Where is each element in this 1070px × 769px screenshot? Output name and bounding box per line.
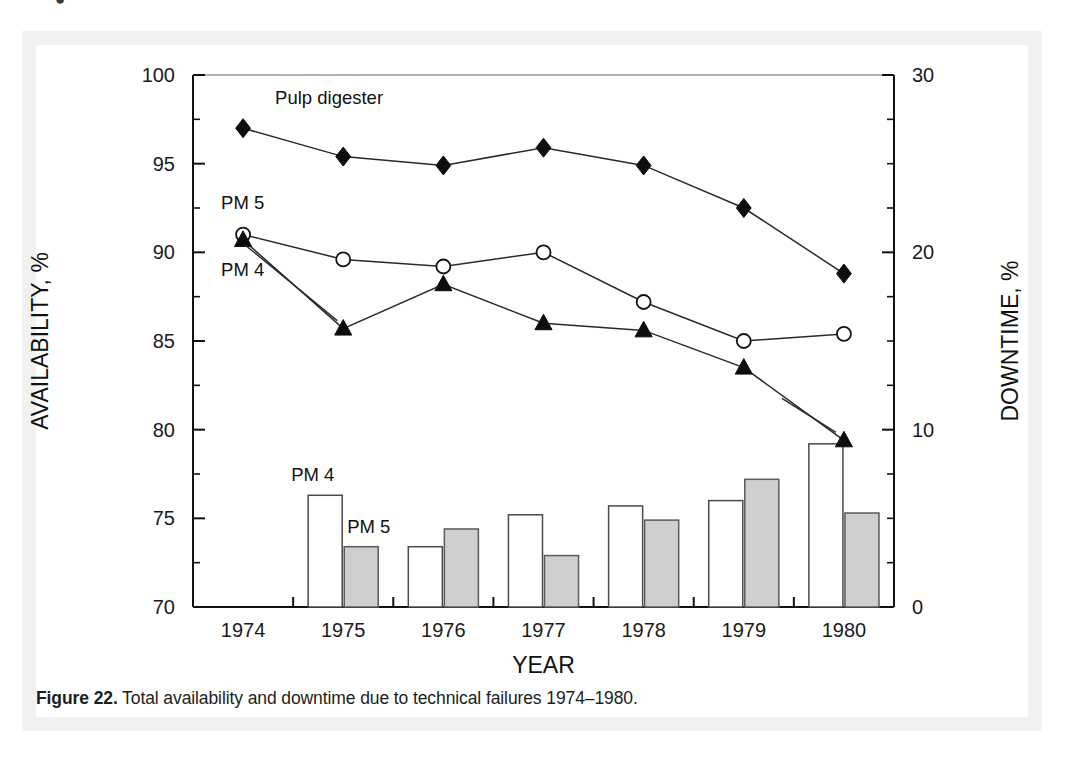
marker-pulp-digester-1976 (436, 156, 451, 175)
figure-caption: Figure 22. Total availability and downti… (36, 688, 936, 709)
marker-pm-4-1978 (635, 321, 652, 336)
marker-pm-5-1976 (436, 260, 450, 274)
y-tick-label-90: 90 (153, 241, 175, 263)
y2-tick-label-20: 20 (912, 241, 934, 263)
annotation-pulp-digester: Pulp digester (275, 87, 383, 108)
marker-pulp-digester-1980 (837, 264, 852, 283)
x-tick-label-1976: 1976 (421, 619, 466, 641)
y-axis-title: AVAILABILITY, % (27, 252, 53, 430)
bar-pm5-1976 (444, 529, 478, 607)
y2-tick-label-0: 0 (912, 596, 923, 618)
marker-pm-5-1977 (537, 245, 551, 259)
marker-pm-4-1976 (435, 275, 452, 290)
marker-pm-4-1980 (835, 431, 852, 446)
x-tick-label-1977: 1977 (521, 619, 566, 641)
marker-pm-5-1978 (637, 295, 651, 309)
x-tick-label-1978: 1978 (621, 619, 666, 641)
bar-pm4-1976 (408, 547, 442, 607)
annotation-pm5-bar: PM 5 (347, 516, 390, 537)
marker-pulp-digester-1979 (736, 199, 751, 218)
y-tick-label-95: 95 (153, 153, 175, 175)
y-tick-label-70: 70 (153, 596, 175, 618)
annotation-pm4-bar: PM 4 (291, 464, 334, 485)
chart-figure: 7075808590951000102030197419751976197719… (0, 0, 1070, 700)
y2-axis-title: DOWNTIME, % (997, 261, 1023, 422)
bar-pm4-1979 (709, 501, 743, 607)
marker-pm-4-1977 (535, 314, 552, 329)
marker-pulp-digester-1977 (536, 138, 551, 157)
bar-pm5-1975 (344, 547, 378, 607)
bar-pm5-1979 (745, 479, 779, 607)
bar-pm5-1978 (645, 520, 679, 607)
marker-pulp-digester-1975 (336, 147, 351, 166)
marker-pulp-digester-1974 (236, 119, 251, 138)
x-tick-label-1980: 1980 (822, 619, 867, 641)
bar-pm4-1975 (308, 495, 342, 607)
leader-pm4-line (245, 245, 337, 321)
annotation-pm4-line: PM 4 (221, 259, 264, 280)
bar-pm4-1980 (809, 444, 843, 607)
y-tick-label-80: 80 (153, 419, 175, 441)
bar-pm5-1977 (545, 556, 579, 607)
bar-pm5-1980 (845, 513, 879, 607)
marker-pm-5-1980 (837, 327, 851, 341)
x-tick-label-1974: 1974 (221, 619, 266, 641)
marker-pm-4-1979 (735, 359, 752, 374)
page-root: ● 70758085909510001020301974197519761977… (0, 0, 1070, 769)
figure-number: Figure 22. (36, 688, 118, 708)
marker-pm-5-1975 (336, 252, 350, 266)
y2-tick-label-10: 10 (912, 419, 934, 441)
annotation-pm5-line: PM 5 (221, 192, 264, 213)
y2-tick-label-30: 30 (912, 64, 934, 86)
chart-svg: 7075808590951000102030197419751976197719… (0, 0, 1070, 700)
y-tick-label-85: 85 (153, 330, 175, 352)
bar-pm4-1978 (609, 506, 643, 607)
leader-pm4-1980 (782, 398, 836, 432)
figure-caption-text: Total availability and downtime due to t… (118, 688, 638, 708)
marker-pm-5-1979 (737, 334, 751, 348)
y-tick-label-100: 100 (142, 64, 175, 86)
bar-pm4-1977 (508, 515, 542, 607)
x-tick-label-1979: 1979 (722, 619, 767, 641)
x-tick-label-1975: 1975 (321, 619, 366, 641)
marker-pm-4-1975 (335, 320, 352, 335)
y-tick-label-75: 75 (153, 507, 175, 529)
marker-pulp-digester-1978 (636, 156, 651, 175)
x-axis-title: YEAR (512, 652, 575, 678)
